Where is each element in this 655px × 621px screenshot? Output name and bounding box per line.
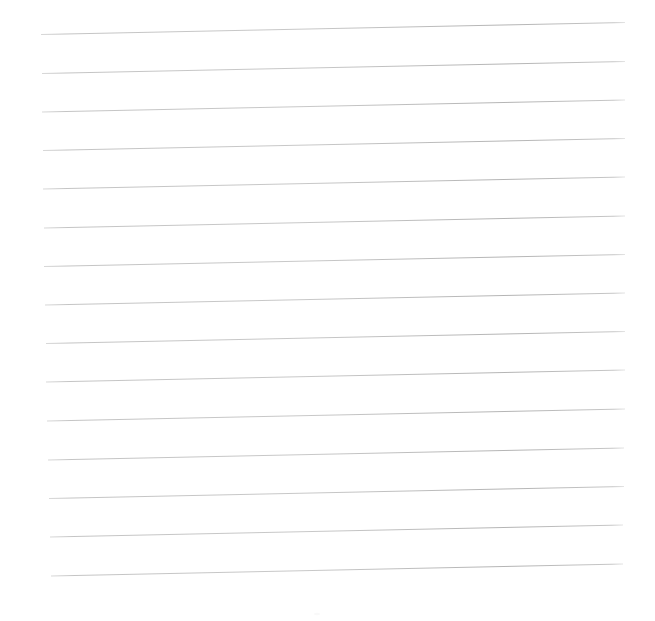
rule-line: [43, 139, 625, 151]
rule-line: [47, 409, 625, 421]
stray-mark-group: [314, 613, 320, 616]
rule-line: [50, 525, 623, 537]
rule-line: [46, 370, 625, 382]
ruled-lines-layer: [0, 0, 655, 621]
rule-line: [49, 487, 624, 499]
rule-group: [41, 23, 625, 577]
rule-line: [46, 332, 625, 344]
rule-line: [42, 100, 625, 112]
rule-line: [48, 448, 624, 460]
faint-speck: [314, 613, 320, 616]
rule-line: [44, 255, 625, 267]
rule-line: [41, 23, 625, 35]
rule-line: [43, 177, 625, 189]
rule-line: [51, 564, 623, 576]
rule-line: [44, 216, 625, 228]
scanned-page: Blank Ruled Paper: [0, 0, 655, 621]
rule-line: [42, 62, 625, 74]
rule-line: [45, 293, 625, 305]
